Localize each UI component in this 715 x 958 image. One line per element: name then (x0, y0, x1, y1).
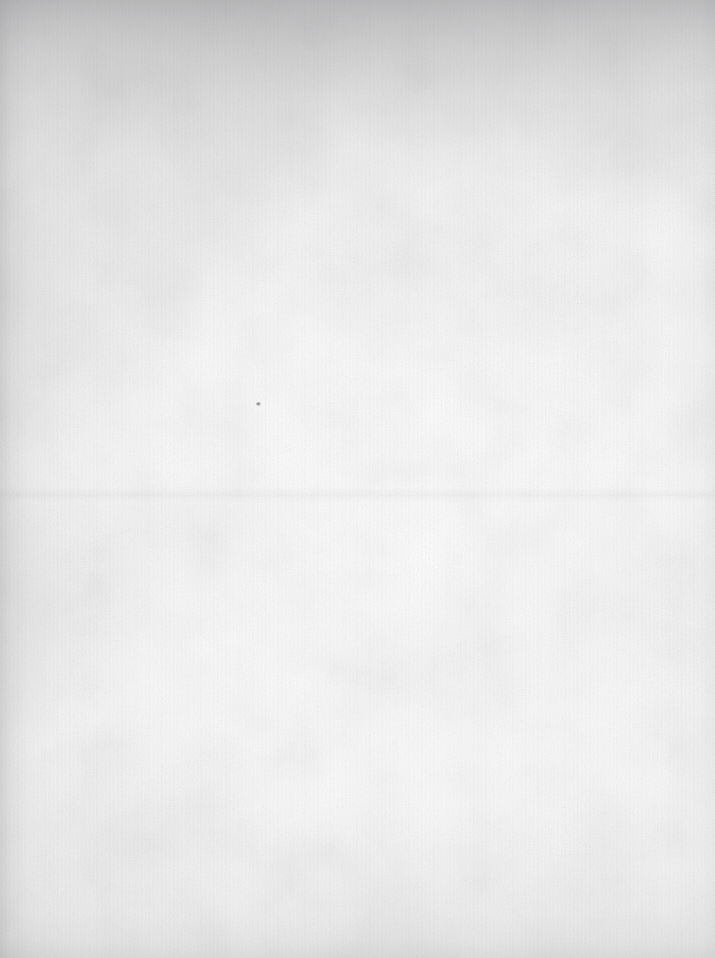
paper-fold-crease (0, 487, 715, 503)
paper-grain-texture (0, 0, 715, 958)
paper-debris-speck (256, 402, 261, 406)
paper-scan-canvas (0, 0, 715, 958)
paper-stain-clouds (0, 0, 715, 958)
paper-edge-vignette (0, 0, 715, 958)
paper-tonal-wash (0, 0, 715, 958)
paper-fiber-striations (0, 0, 715, 958)
paper-base-tone (0, 0, 715, 958)
